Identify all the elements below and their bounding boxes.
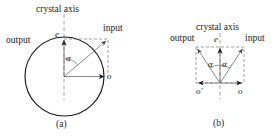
- o-label-right-b: o: [238, 86, 243, 96]
- caption-a: (a): [56, 119, 67, 130]
- input-label-b: input: [245, 33, 265, 43]
- crystal-axis-label-a: crystal axis: [36, 4, 79, 14]
- angle-label-right-b: α: [222, 59, 227, 69]
- e-label-b: e: [214, 34, 218, 44]
- panel-a: crystal axis input output e o α (a): [6, 4, 123, 130]
- o-label-left-b: o': [196, 86, 204, 96]
- panel-b: crystal axis input output e o o' α α (b): [170, 22, 265, 129]
- angle-label-a: α: [66, 53, 71, 63]
- output-label-b: output: [170, 33, 195, 43]
- e-label-a: e: [55, 29, 59, 39]
- o-label-a: o: [107, 71, 112, 81]
- figure-container: crystal axis input output e o α (a): [0, 0, 280, 140]
- output-label-a: output: [6, 35, 31, 45]
- input-label-a: input: [103, 23, 123, 33]
- figure-svg: crystal axis input output e o α (a): [0, 0, 280, 140]
- angle-label-left-b: α: [208, 59, 213, 69]
- crystal-axis-label-b: crystal axis: [196, 22, 239, 32]
- caption-b: (b): [213, 118, 224, 129]
